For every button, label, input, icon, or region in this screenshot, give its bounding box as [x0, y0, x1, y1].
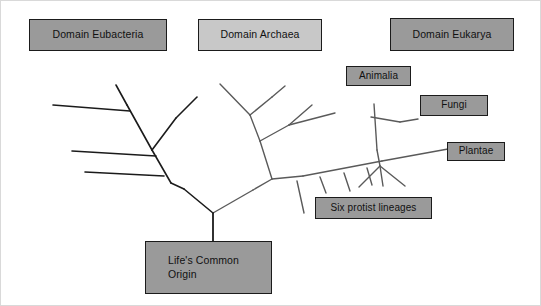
label-domain-eubacteria-text: Domain Eubacteria	[53, 28, 144, 41]
eubacteria-branch-5	[152, 118, 176, 150]
eubacteria-branch-9	[85, 172, 164, 176]
eukarya-archaea-branch-12	[382, 149, 448, 161]
label-plantae[interactable]: Plantae	[447, 142, 505, 161]
eukarya-archaea-branch-18	[297, 181, 304, 213]
eukarya-archaea-branch-20	[344, 173, 350, 191]
eubacteria-branch-1	[171, 183, 184, 189]
label-lifes-common-origin[interactable]: Life's Common Origin	[145, 241, 272, 294]
eubacteria-branch-7	[53, 105, 130, 111]
label-domain-eubacteria[interactable]: Domain Eubacteria	[29, 19, 167, 51]
eubacteria-branch-0	[184, 189, 213, 213]
eubacteria-branch-8	[72, 151, 156, 156]
eubacteria-branch-2	[152, 150, 171, 183]
eukarya-archaea-branch-3	[250, 115, 260, 141]
label-fungi-text: Fungi	[441, 99, 467, 112]
eukarya-archaea-branch-13	[374, 104, 377, 150]
eukarya-archaea-branch-4	[220, 84, 250, 115]
label-domain-eukarya[interactable]: Domain Eukarya	[390, 18, 514, 51]
label-domain-archaea[interactable]: Domain Archaea	[198, 19, 322, 51]
eukarya-archaea-branch-19	[320, 177, 326, 193]
eukarya-archaea-branch-22	[359, 166, 380, 187]
label-lifes-common-origin-text: Life's Common Origin	[168, 254, 239, 280]
label-plantae-text: Plantae	[459, 145, 494, 158]
eukarya-archaea-branch-7	[260, 125, 289, 141]
label-animalia[interactable]: Animalia	[346, 66, 411, 86]
phylogenetic-tree-diagram: Domain Eubacteria Domain Archaea Domain …	[0, 0, 541, 306]
eubacteria-branch-4	[116, 85, 127, 105]
eukarya-archaea-branch-23	[380, 166, 405, 186]
eukarya-archaea-branch-6	[272, 86, 285, 97]
label-domain-eukarya-text: Domain Eukarya	[412, 28, 491, 41]
eukarya-archaea-branch-1	[253, 179, 272, 190]
eukarya-archaea-branch-11	[303, 161, 382, 176]
eubacteria-branch-3	[127, 105, 152, 150]
archaea-eukarya-branch-group	[213, 84, 448, 213]
eubacteria-branch-6	[176, 97, 197, 118]
eukarya-archaea-branch-0	[213, 190, 253, 213]
eukarya-archaea-branch-15	[380, 166, 383, 186]
label-animalia-text: Animalia	[359, 70, 398, 83]
eukarya-archaea-branch-2	[260, 141, 272, 179]
eubacteria-branch-group	[53, 85, 213, 213]
label-domain-archaea-text: Domain Archaea	[220, 28, 299, 41]
label-fungi[interactable]: Fungi	[420, 95, 488, 116]
label-six-protist-lineages-text: Six protist lineages	[331, 202, 417, 215]
eukarya-archaea-branch-14	[377, 150, 380, 166]
label-six-protist-lineages[interactable]: Six protist lineages	[315, 197, 432, 219]
eukarya-archaea-branch-10	[272, 176, 303, 179]
eukarya-archaea-branch-5	[250, 97, 272, 115]
eukarya-archaea-branch-17	[400, 119, 418, 122]
